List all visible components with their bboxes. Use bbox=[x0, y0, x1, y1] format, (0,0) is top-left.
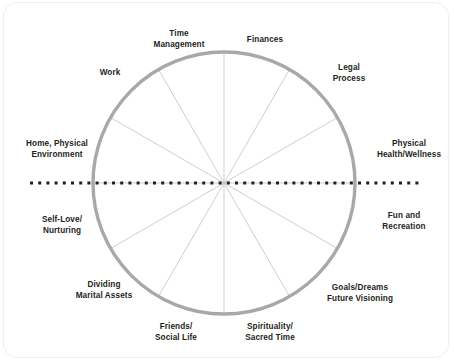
wheel-spoke-330 bbox=[159, 70, 225, 183]
axis-dot bbox=[268, 182, 271, 185]
axis-dot bbox=[219, 182, 222, 185]
axis-dot bbox=[30, 182, 33, 185]
axis-dot bbox=[374, 182, 377, 185]
axis-dot bbox=[178, 182, 181, 185]
wheel-label-legal-process: Legal Process bbox=[333, 63, 366, 84]
wheel-label-dividing-marital-assets: Dividing Marital Assets bbox=[76, 280, 133, 301]
axis-dot bbox=[63, 182, 66, 185]
axis-dot bbox=[333, 182, 336, 185]
wheel-label-fun-and-recreation: Fun and Recreation bbox=[382, 211, 425, 232]
axis-dot bbox=[96, 182, 99, 185]
axis-dot bbox=[399, 182, 402, 185]
wheel-spoke-30 bbox=[224, 70, 290, 183]
wheel-spoke-60 bbox=[224, 118, 337, 184]
axis-dot bbox=[415, 182, 418, 185]
axis-dot bbox=[55, 182, 58, 185]
axis-dot bbox=[153, 182, 156, 185]
axis-dot bbox=[79, 182, 82, 185]
wheel-label-time-management: Time Management bbox=[153, 29, 204, 50]
axis-dot bbox=[169, 182, 172, 185]
wheel-spoke-120 bbox=[224, 183, 337, 249]
axis-dot bbox=[186, 182, 189, 185]
axis-dot bbox=[276, 182, 279, 185]
axis-dot bbox=[292, 182, 295, 185]
wheel-label-home-physical-environment: Home, Physical Environment bbox=[26, 139, 88, 160]
axis-dot bbox=[358, 182, 361, 185]
axis-dot bbox=[325, 182, 328, 185]
axis-dot bbox=[104, 182, 107, 185]
axis-dot bbox=[71, 182, 74, 185]
axis-dot bbox=[87, 182, 90, 185]
axis-dot bbox=[137, 182, 140, 185]
axis-dot bbox=[145, 182, 148, 185]
axis-dot bbox=[309, 182, 312, 185]
axis-dot bbox=[202, 182, 205, 185]
axis-dot bbox=[46, 182, 49, 185]
axis-dot bbox=[120, 182, 123, 185]
wheel-label-work: Work bbox=[100, 68, 121, 79]
wheel-label-finances: Finances bbox=[247, 35, 283, 46]
axis-dot bbox=[350, 182, 353, 185]
axis-dot bbox=[227, 182, 230, 185]
axis-dot bbox=[317, 182, 320, 185]
axis-dot bbox=[210, 182, 213, 185]
axis-dot bbox=[194, 182, 197, 185]
axis-dot bbox=[112, 182, 115, 185]
axis-dot bbox=[391, 182, 394, 185]
axis-dot bbox=[243, 182, 246, 185]
axis-dot bbox=[407, 182, 410, 185]
axis-dot bbox=[128, 182, 131, 185]
axis-dot bbox=[284, 182, 287, 185]
axis-dot bbox=[366, 182, 369, 185]
wheel-label-self-love-nurturing: Self-Love/ Nurturing bbox=[42, 215, 82, 236]
axis-dot bbox=[38, 182, 41, 185]
axis-dot bbox=[251, 182, 254, 185]
wheel-of-life-page: Time ManagementFinancesLegal ProcessWork… bbox=[0, 0, 454, 362]
axis-dot bbox=[235, 182, 238, 185]
wheel-label-spirituality-sacred-time: Spirituality/ Sacred Time bbox=[245, 322, 295, 343]
wheel-label-physical-health-wellness: Physical Health/Wellness bbox=[377, 139, 441, 160]
wheel-spoke-240 bbox=[111, 183, 224, 249]
wheel-spoke-210 bbox=[159, 183, 225, 296]
axis-dot bbox=[161, 182, 164, 185]
wheel-label-friends-social-life: Friends/ Social Life bbox=[155, 322, 197, 343]
axis-dot bbox=[383, 182, 386, 185]
axis-dot bbox=[342, 182, 345, 185]
wheel-spoke-150 bbox=[224, 183, 290, 296]
wheel-spoke-300 bbox=[111, 118, 224, 184]
axis-dot bbox=[260, 182, 263, 185]
axis-dot bbox=[301, 182, 304, 185]
wheel-label-goals-dreams-future-visioning: Goals/Dreams Future Visioning bbox=[327, 283, 393, 304]
wheel-diagram-svg bbox=[0, 0, 454, 362]
